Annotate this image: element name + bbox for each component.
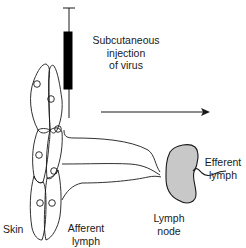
efferent-lymph-label: Efferent lymph [200,156,246,181]
skin-cell [30,176,46,240]
skin-cells [30,64,62,240]
skin-label-text: Skin [3,223,29,236]
lymph-node-label-line: Lymph [145,212,193,225]
lymph-node-label-line: node [145,225,193,238]
skin-cell [44,170,61,240]
injection-label-line: of virus [80,59,172,72]
afferent-label-line: lymph [62,235,110,248]
injection-label-line: injection [80,47,172,60]
cell-nucleus [34,81,41,88]
cell-nucleus [49,200,56,207]
syringe-barrel [64,32,72,89]
cell-nucleus [36,152,43,159]
afferent-vessel [64,130,160,172]
skin-cell [46,128,62,179]
skin-cell [33,129,50,183]
skin-cell [31,64,50,133]
lymph-node [166,145,198,203]
afferent-label-line: Afferent [62,222,110,235]
skin-cell [49,65,63,133]
afferent-vessel [62,164,160,175]
afferent-lymph-vessels [62,130,161,200]
lymph-node-label: Lymph node [145,212,193,237]
cell-nucleus [37,200,44,207]
efferent-label-line: Efferent [200,156,246,169]
afferent-lymph-label: Afferent lymph [62,222,110,247]
injection-label: Subcutaneous injection of virus [80,34,172,72]
efferent-label-line: lymph [200,169,246,182]
syringe-icon [63,8,75,118]
virus-lymph-drainage-diagram: Subcutaneous injection of virus Skin Aff… [0,0,246,248]
injection-label-line: Subcutaneous [80,34,172,47]
afferent-vessel [62,176,161,200]
flow-arrow-icon [101,108,210,116]
skin-label: Skin [3,223,29,236]
